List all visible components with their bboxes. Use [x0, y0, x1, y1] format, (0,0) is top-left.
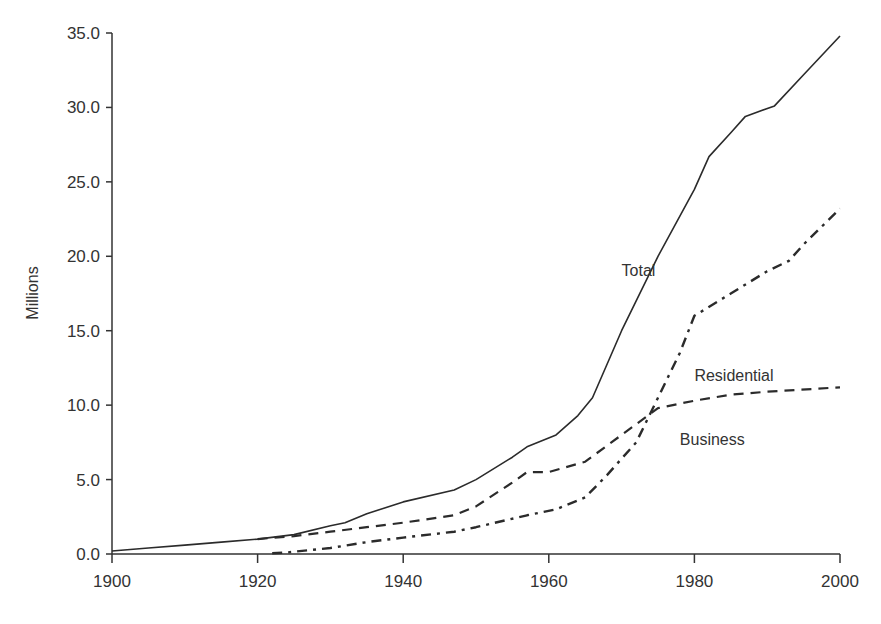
y-tick-label: 5.0 [76, 471, 100, 490]
x-tick-label: 1960 [530, 572, 568, 591]
series-lines [112, 36, 840, 553]
series-labels: TotalResidentialBusiness [622, 262, 774, 449]
y-tick-label: 30.0 [67, 98, 100, 117]
y-tick-label: 0.0 [76, 545, 100, 564]
y-tick-label: 35.0 [67, 24, 100, 43]
x-tick-label: 1980 [675, 572, 713, 591]
y-axis: 0.05.010.015.020.025.030.035.0 [67, 24, 112, 564]
y-axis-title: Millions [24, 266, 41, 319]
x-tick-label: 1920 [239, 572, 277, 591]
series-line-business [258, 387, 840, 539]
series-label-business: Business [680, 431, 745, 448]
line-chart: 0.05.010.015.020.025.030.035.0 190019201… [0, 0, 881, 624]
series-label-residential: Residential [694, 367, 773, 384]
y-tick-label: 25.0 [67, 173, 100, 192]
y-tick-label: 20.0 [67, 247, 100, 266]
x-tick-label: 1940 [384, 572, 422, 591]
y-tick-label: 10.0 [67, 396, 100, 415]
x-tick-label: 1900 [93, 572, 131, 591]
series-label-total: Total [622, 262, 656, 279]
x-tick-label: 2000 [821, 572, 859, 591]
x-axis: 190019201940196019802000 [93, 554, 859, 591]
y-tick-label: 15.0 [67, 322, 100, 341]
